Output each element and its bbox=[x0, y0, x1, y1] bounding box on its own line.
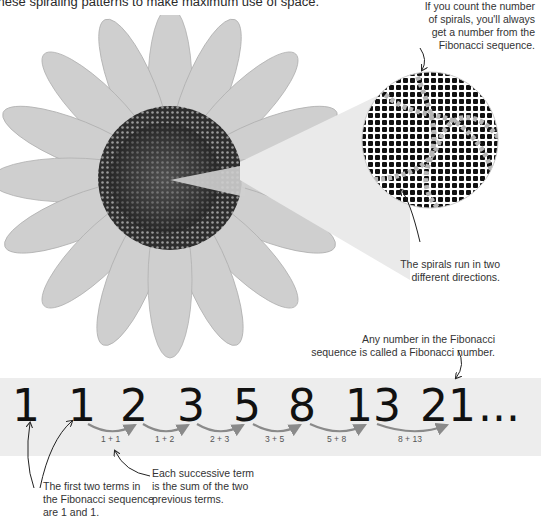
note-line: previous terms. bbox=[152, 493, 272, 506]
note-line: Each successive term bbox=[152, 467, 272, 480]
note-line: is the sum of the two bbox=[152, 480, 272, 493]
note-line: The first two terms in bbox=[43, 480, 163, 493]
pointer-arrows bbox=[0, 0, 541, 516]
successive-term-note: Each successive term is the sum of the t… bbox=[152, 467, 272, 506]
first-terms-note: The first two terms in the Fibonacci seq… bbox=[43, 480, 163, 516]
note-line: the Fibonacci sequence bbox=[43, 493, 163, 506]
note-line: are 1 and 1. bbox=[43, 506, 163, 516]
